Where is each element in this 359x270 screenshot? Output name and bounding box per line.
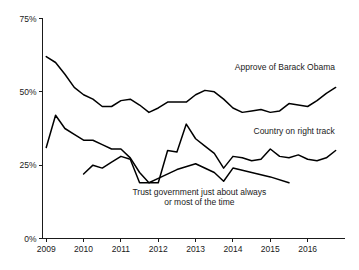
x-tick-label: 2016 [298,244,317,254]
x-tick-label: 2010 [74,244,93,254]
x-tick-label: 2014 [224,244,243,254]
y-axis-ticks: 75%50%25%0% [19,14,42,244]
y-tick-label: 0% [24,234,37,244]
x-axis: 20092010201120122013201420152016 [37,239,345,254]
series-label-line: Trust government just about always [132,187,266,197]
y-axis: 75%50%25%0% [19,14,42,244]
series-label-1: Country on right track [254,126,336,136]
chart-container: 75%50%25%0% 2009201020112012201320142015… [0,0,359,270]
series-label-line: Approve of Barack Obama [235,62,335,72]
y-tick-label: 50% [19,87,36,97]
series-label-line: or most of the time [164,197,235,207]
y-tick-label: 75% [19,14,36,24]
series-label-2: Trust government just about alwaysor mos… [132,187,266,207]
x-tick-label: 2015 [261,244,280,254]
series-lines [46,57,335,183]
x-tick-label: 2011 [112,244,131,254]
series-label-0: Approve of Barack Obama [235,62,335,72]
y-tick-label: 25% [19,160,36,170]
line-chart: 75%50%25%0% 2009201020112012201320142015… [0,0,359,270]
x-tick-label: 2009 [37,244,56,254]
x-tick-label: 2012 [149,244,168,254]
x-tick-label: 2013 [186,244,205,254]
series-label-line: Country on right track [254,126,336,136]
series-annotations: Approve of Barack ObamaCountry on right … [132,62,335,207]
x-axis-ticks: 20092010201120122013201420152016 [37,239,318,254]
